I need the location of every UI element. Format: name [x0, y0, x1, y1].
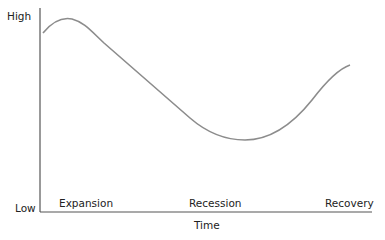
x-axis-title: Time	[194, 219, 220, 231]
phase-label-recovery: Recovery	[325, 197, 374, 209]
phase-label-recession: Recession	[189, 197, 241, 209]
phase-label-expansion: Expansion	[59, 197, 113, 209]
cycle-curve	[43, 19, 350, 140]
y-low-label: Low	[15, 202, 36, 214]
y-high-label: High	[7, 10, 31, 22]
